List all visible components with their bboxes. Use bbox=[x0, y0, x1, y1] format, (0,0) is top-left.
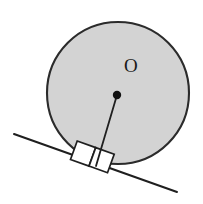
center-label-O: O bbox=[124, 56, 138, 75]
geometry-figure: O bbox=[0, 0, 203, 204]
figure-canvas bbox=[0, 0, 203, 204]
center-point-dot bbox=[113, 91, 121, 99]
